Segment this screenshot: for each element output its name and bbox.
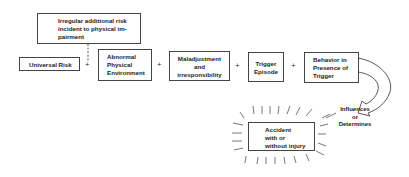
box-line: Episode <box>249 68 283 76</box>
maladjustment-box: Maladjustment and irresponsibility <box>169 51 230 81</box>
plus-operator: + <box>157 61 162 69</box>
box-line: Environment <box>107 69 151 77</box>
box-line: Behavior in <box>313 56 358 64</box>
label-line: or <box>333 114 377 122</box>
label-line: Influences <box>333 106 377 114</box>
box-line: Trigger <box>313 72 358 80</box>
box-line: Physical <box>107 61 151 69</box>
box-line: pairment <box>58 33 140 41</box>
irregular-risk-box: Irregular additional risk incident to ph… <box>37 13 141 44</box>
trigger-episode-box: Trigger Episode <box>248 52 284 82</box>
accident-box: Accident with or without injury <box>248 122 315 151</box>
plus-operator: + <box>291 62 296 70</box>
universal-risk-box: Universal Risk <box>19 57 80 71</box>
box-line: with or <box>265 134 314 142</box>
box-line: Maladjustment <box>170 55 229 63</box>
label-line: Determines <box>333 121 377 129</box>
box-line: Presence of <box>313 64 358 72</box>
box-line: Abnormal <box>107 53 151 61</box>
box-line: Accident <box>265 126 314 134</box>
plus-operator: + <box>235 62 240 70</box>
box-line: Trigger <box>249 60 283 68</box>
box-line: Universal Risk <box>29 61 79 69</box>
behavior-in-presence-box: Behavior in Presence of Trigger <box>304 52 359 83</box>
box-line: Irregular additional risk <box>58 17 140 25</box>
influences-label: Influences or Determines <box>333 106 377 129</box>
box-line: incident to physical im- <box>58 25 140 33</box>
box-line: and <box>170 63 229 71</box>
box-line: irresponsibility <box>170 71 229 79</box>
abnormal-physical-environment-box: Abnormal Physical Environment <box>98 49 152 81</box>
box-line: without injury <box>265 142 314 150</box>
plus-operator: + <box>85 61 90 69</box>
